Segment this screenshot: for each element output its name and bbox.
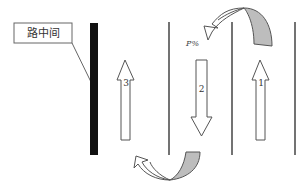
lane-3-arrow-up-icon: [117, 60, 134, 140]
road-median: [90, 23, 98, 155]
lane-3-number: 3: [123, 78, 129, 88]
callout-leader-line: [72, 43, 91, 82]
bottom-u-turn-arrow-icon: [134, 152, 200, 180]
lane-2-number: 2: [199, 84, 205, 94]
lane-1-number: 1: [258, 78, 264, 88]
lane-2-arrow-down-icon: [191, 60, 212, 136]
percent-label: P%: [185, 39, 199, 48]
road-diagram: 路中间 3 2 P% 1: [0, 0, 307, 189]
top-u-turn-arrow-icon: [204, 8, 272, 46]
median-callout-label: 路中间: [27, 27, 60, 40]
lane-1-arrow-up-icon: [252, 60, 269, 140]
